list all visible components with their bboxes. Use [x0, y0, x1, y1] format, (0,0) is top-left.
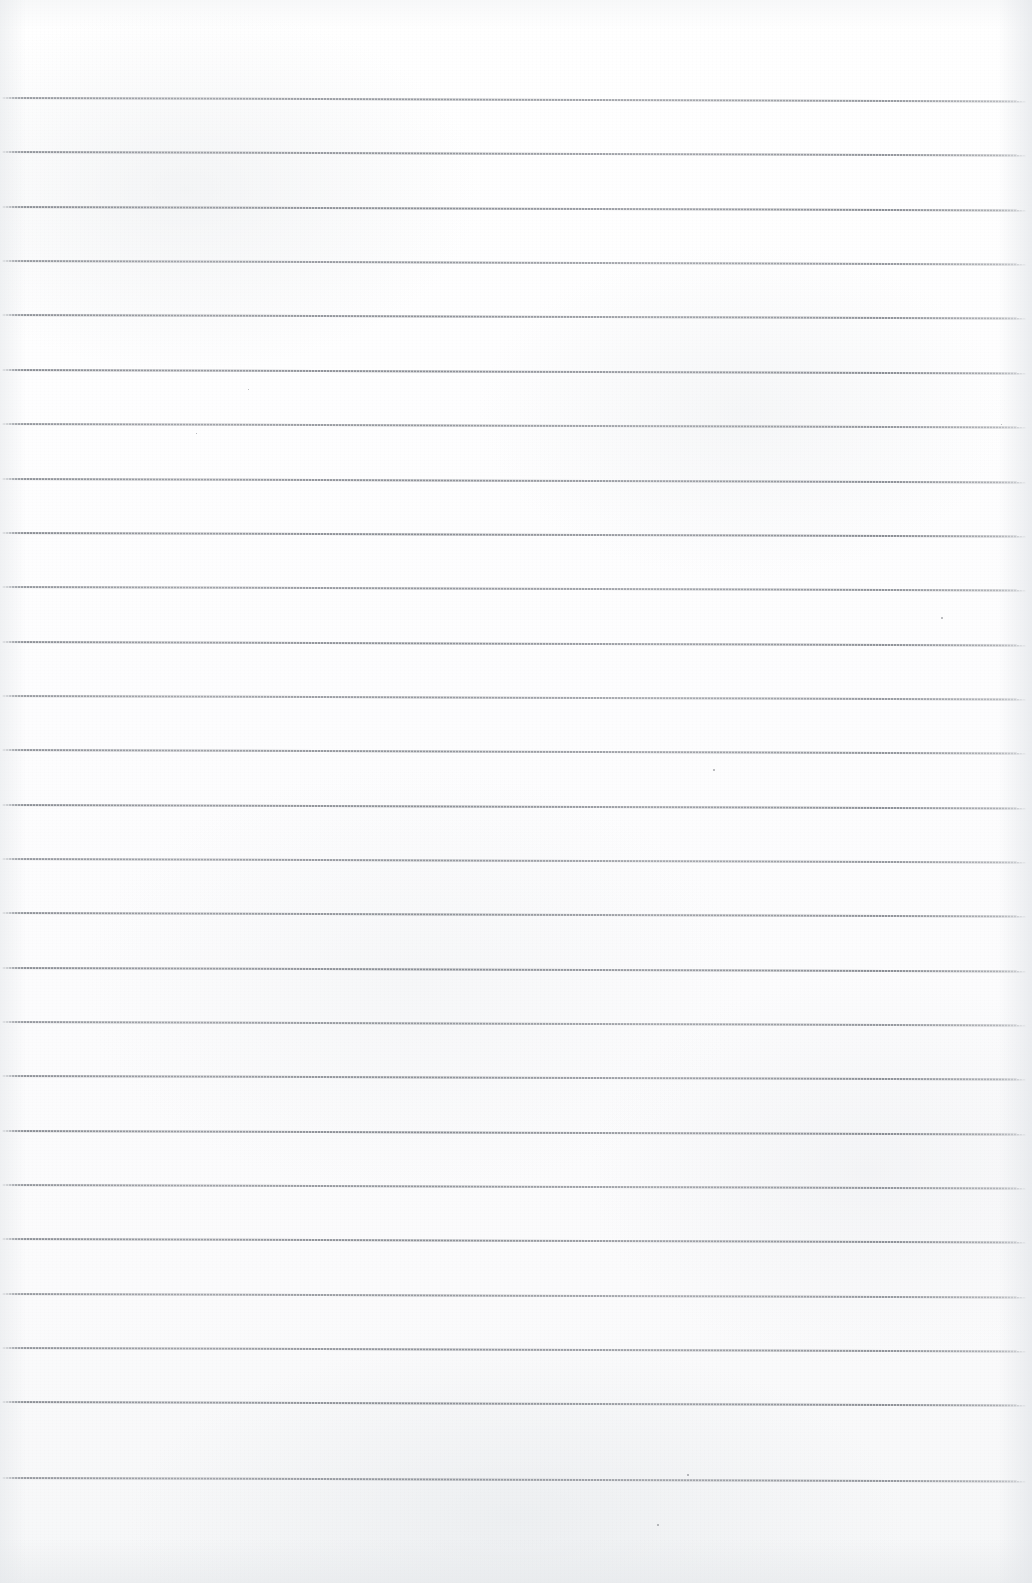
rule-line: [2, 97, 1026, 102]
rule-line: [2, 804, 1026, 809]
rule-line: [2, 478, 1026, 483]
ruled-lines-layer: [0, 0, 1032, 1583]
scan-speck: [657, 1524, 659, 1526]
rule-line: [2, 369, 1026, 374]
scan-speck: [196, 433, 197, 434]
rule-line: [2, 1401, 1026, 1406]
rule-line: [2, 206, 1026, 211]
scan-speck: [713, 769, 715, 771]
rule-line: [2, 586, 1026, 591]
rule-line: [2, 1075, 1026, 1080]
rule-line: [2, 1184, 1026, 1189]
rule-line: [2, 749, 1026, 754]
rule-line: [2, 967, 1026, 972]
rule-line: [2, 314, 1026, 319]
scan-speck: [1001, 424, 1002, 425]
rule-line: [2, 695, 1026, 700]
rule-line: [2, 151, 1026, 156]
scan-speck: [687, 1474, 689, 1476]
rule-line: [2, 912, 1026, 917]
rule-line: [2, 1347, 1026, 1352]
rule-line: [2, 641, 1026, 646]
rule-line: [2, 423, 1026, 428]
scan-speck: [248, 389, 249, 390]
rule-line: [2, 260, 1026, 265]
rule-line: [2, 1021, 1026, 1026]
rule-line: [2, 1293, 1026, 1298]
rule-line: [2, 532, 1026, 537]
scanned-page: [0, 0, 1032, 1583]
rule-line: [2, 1477, 1026, 1482]
rule-line: [2, 858, 1026, 863]
rule-line: [2, 1130, 1026, 1135]
scan-speck: [941, 617, 943, 619]
rule-line: [2, 1238, 1026, 1243]
